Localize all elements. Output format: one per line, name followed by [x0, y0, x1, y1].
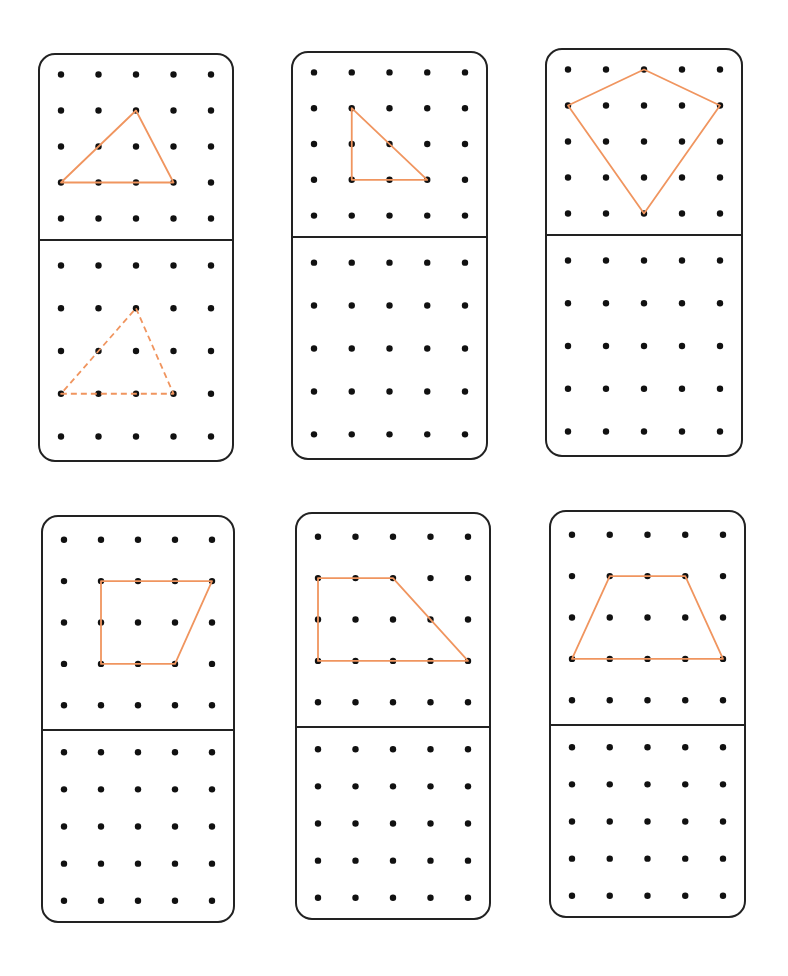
peg-dot	[720, 818, 726, 824]
peg-dot	[208, 215, 214, 221]
peg-dot	[315, 895, 321, 901]
peg-dot	[427, 699, 433, 705]
geoboard-card-4	[41, 515, 235, 923]
peg-dot	[349, 302, 355, 308]
peg-dot	[462, 105, 468, 111]
peg-dot	[424, 259, 430, 265]
peg-dot	[95, 215, 101, 221]
peg-dot	[352, 783, 358, 789]
card-border	[292, 52, 487, 459]
peg-dot	[386, 105, 392, 111]
peg-dot	[135, 860, 141, 866]
peg-dot	[717, 138, 723, 144]
peg-dot	[569, 818, 575, 824]
geoboard-svg	[41, 515, 235, 923]
peg-dot	[427, 820, 433, 826]
geoboard-svg	[38, 53, 234, 462]
geoboard-svg	[545, 48, 743, 457]
peg-dot	[135, 749, 141, 755]
peg-dot	[569, 744, 575, 750]
peg-dot	[315, 534, 321, 540]
peg-dot	[603, 174, 609, 180]
peg-dot	[311, 431, 317, 437]
peg-dot	[720, 614, 726, 620]
peg-dot	[462, 302, 468, 308]
peg-dot	[58, 215, 64, 221]
peg-dot	[133, 262, 139, 268]
peg-dot	[170, 305, 176, 311]
peg-dot	[720, 893, 726, 899]
peg-dot	[679, 343, 685, 349]
peg-dot	[462, 141, 468, 147]
peg-dot	[135, 702, 141, 708]
peg-dot	[172, 823, 178, 829]
peg-dot	[424, 388, 430, 394]
peg-dot	[209, 860, 215, 866]
peg-dot	[565, 386, 571, 392]
peg-dot	[172, 702, 178, 708]
peg-dot	[61, 898, 67, 904]
peg-dot	[315, 783, 321, 789]
peg-dot	[352, 820, 358, 826]
peg-dot	[682, 893, 688, 899]
peg-dot	[58, 262, 64, 268]
peg-dot	[462, 69, 468, 75]
peg-dot	[133, 71, 139, 77]
peg-dot	[135, 619, 141, 625]
peg-dot	[170, 348, 176, 354]
peg-dot	[352, 699, 358, 705]
peg-dot	[98, 823, 104, 829]
peg-dot	[682, 532, 688, 538]
peg-dot	[679, 428, 685, 434]
peg-dot	[427, 746, 433, 752]
peg-dot	[349, 388, 355, 394]
peg-dot	[679, 66, 685, 72]
peg-dot	[58, 433, 64, 439]
peg-dot	[95, 262, 101, 268]
peg-dot	[133, 143, 139, 149]
peg-dot	[427, 534, 433, 540]
peg-dot	[644, 818, 650, 824]
peg-dot	[135, 786, 141, 792]
peg-dot	[565, 428, 571, 434]
peg-dot	[424, 69, 430, 75]
peg-dot	[208, 305, 214, 311]
peg-dot	[569, 532, 575, 538]
peg-dot	[95, 305, 101, 311]
peg-dot	[720, 573, 726, 579]
peg-dot	[311, 259, 317, 265]
peg-dot	[315, 857, 321, 863]
card-border	[546, 49, 742, 456]
geoboard-svg	[295, 512, 491, 920]
peg-dot	[98, 860, 104, 866]
peg-dot	[644, 697, 650, 703]
peg-dot	[644, 893, 650, 899]
geoboard-card-5	[295, 512, 491, 920]
peg-dot	[135, 898, 141, 904]
peg-dot	[679, 386, 685, 392]
peg-dot	[424, 141, 430, 147]
peg-dot	[58, 143, 64, 149]
peg-dot	[569, 893, 575, 899]
peg-dot	[641, 257, 647, 263]
peg-dot	[349, 212, 355, 218]
peg-dot	[607, 614, 613, 620]
peg-dot	[569, 697, 575, 703]
peg-dot	[172, 619, 178, 625]
peg-dot	[462, 388, 468, 394]
peg-dot	[98, 898, 104, 904]
peg-dot	[61, 661, 67, 667]
geoboard-card-1	[38, 53, 234, 462]
peg-dot	[98, 749, 104, 755]
peg-dot	[462, 259, 468, 265]
peg-dot	[569, 573, 575, 579]
peg-dot	[717, 386, 723, 392]
peg-dot	[58, 107, 64, 113]
peg-dot	[603, 257, 609, 263]
peg-dot	[61, 749, 67, 755]
peg-dot	[95, 71, 101, 77]
peg-dot	[95, 107, 101, 113]
peg-dot	[565, 174, 571, 180]
card-border	[39, 54, 233, 461]
peg-dot	[172, 786, 178, 792]
